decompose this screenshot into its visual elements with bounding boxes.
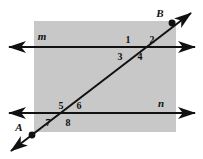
point-a-label: A — [14, 121, 22, 133]
angle-label-6: 6 — [77, 100, 82, 111]
line-m-label: m — [38, 30, 47, 42]
point-b-label: B — [155, 7, 163, 19]
point-b-dot — [169, 20, 176, 27]
gray-plane-rectangle — [34, 21, 176, 132]
line-n-label: n — [158, 97, 164, 109]
angle-label-2: 2 — [150, 34, 155, 45]
angle-label-5: 5 — [59, 100, 64, 111]
angle-label-4: 4 — [138, 51, 143, 62]
angle-label-3: 3 — [118, 51, 123, 62]
angle-label-8: 8 — [66, 117, 71, 128]
angle-label-1: 1 — [126, 34, 131, 45]
geometry-diagram-canvas: m n A B 1 2 3 4 5 6 7 8 — [0, 0, 203, 159]
angle-label-7: 7 — [46, 117, 51, 128]
point-a-dot — [29, 132, 36, 139]
geometry-figure: m n A B 1 2 3 4 5 6 7 8 — [0, 0, 203, 159]
